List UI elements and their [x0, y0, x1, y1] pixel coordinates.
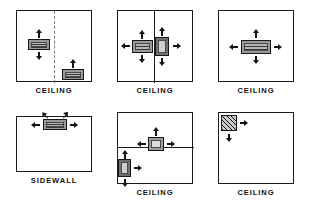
- panel-1-dashed-divider: [54, 11, 55, 83]
- arrow-down: [226, 133, 232, 142]
- diffuser-left-of-wall: [132, 40, 153, 53]
- arrow-right: [133, 165, 142, 171]
- arrow-right: [273, 44, 282, 50]
- arrow-up: [122, 150, 128, 159]
- arrow-down: [253, 55, 259, 64]
- panel-2-caption: CEILING: [117, 86, 193, 95]
- panel-2-room: [117, 10, 193, 82]
- panel-5-room: [117, 112, 193, 184]
- arrow-left: [137, 141, 146, 147]
- arrow-right: [166, 141, 175, 147]
- arrow-up: [153, 127, 159, 136]
- arrow-left: [121, 43, 130, 49]
- panel-5-caption: CEILING: [117, 188, 193, 197]
- panel-1-caption: CEILING: [16, 86, 92, 95]
- panel-1-room: [16, 10, 92, 82]
- arrow-left: [31, 122, 40, 128]
- panel-6-caption: CEILING: [218, 188, 294, 197]
- panel-4-room: [16, 116, 92, 172]
- diffuser-center: [241, 40, 271, 54]
- diffuser-right-of-wall-face: [158, 40, 166, 53]
- diffuser-placement-figure: CEILING: [0, 0, 310, 210]
- arrow-up: [70, 59, 76, 68]
- arrow-down: [122, 178, 128, 187]
- arrow-up: [253, 29, 259, 38]
- diffuser-left-wall-face: [121, 162, 128, 174]
- arrow-up: [36, 29, 42, 38]
- diffuser-left: [28, 39, 50, 50]
- panel-4-caption: SIDEWALL: [16, 176, 92, 185]
- arrow-down: [139, 54, 145, 63]
- panel-6-room: [218, 112, 294, 184]
- arrow-down: [159, 57, 165, 66]
- panel-3-room: [218, 10, 294, 82]
- diffuser-left-wall: [118, 159, 131, 177]
- diffuser-on-divider: [148, 137, 164, 151]
- arrow-left: [229, 44, 238, 50]
- arrow-down: [36, 51, 42, 60]
- panel-3-caption: CEILING: [218, 86, 294, 95]
- diffuser-lower-right: [62, 69, 84, 80]
- diffuser-right-of-wall: [155, 37, 169, 56]
- arrow-right: [69, 122, 78, 128]
- arrow-right: [172, 43, 181, 49]
- arrow-right: [239, 120, 248, 126]
- diffuser-on-divider-face: [151, 140, 161, 148]
- diffuser-corner: [221, 115, 237, 131]
- arrow-up: [159, 27, 165, 36]
- arrow-up: [139, 30, 145, 39]
- diffuser-top-center: [43, 119, 67, 130]
